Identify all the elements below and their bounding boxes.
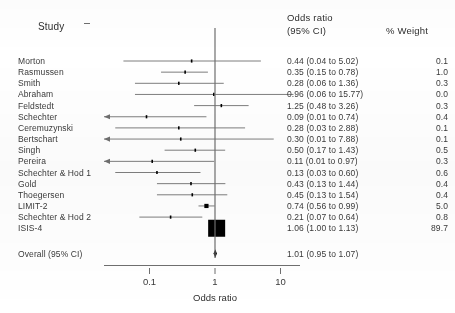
study-name-label: Singh <box>18 145 40 155</box>
odds-ratio-value: 1.06 (1.00 to 1.13) <box>287 223 358 233</box>
odds-ratio-value: 1.25 (0.48 to 3.26) <box>287 101 358 111</box>
weight-value: 0.3 <box>386 78 448 88</box>
odds-ratio-value: 0.13 (0.03 to 0.60) <box>287 168 358 178</box>
point-estimate-marker <box>204 204 208 208</box>
weight-value: 5.0 <box>386 201 448 211</box>
point-estimate-marker-large <box>208 220 225 237</box>
weight-value: 0.6 <box>386 168 448 178</box>
study-name-label: Pereira <box>18 156 46 166</box>
summary-label: Overall (95% CI) <box>18 249 82 259</box>
odds-ratio-value: 0.44 (0.04 to 5.02) <box>287 56 358 66</box>
odds-ratio-value: 0.35 (0.15 to 0.78) <box>287 67 358 77</box>
study-name-label: LIMIT-2 <box>18 201 48 211</box>
weight-value: 0.5 <box>386 145 448 155</box>
axis-title: Odds ratio <box>193 292 237 303</box>
column-header-study: Study <box>38 21 65 32</box>
odds-ratio-value: 0.45 (0.13 to 1.54) <box>287 190 358 200</box>
weight-value: 0.1 <box>386 56 448 66</box>
axis-layer <box>104 28 300 274</box>
study-name-label: Schechter <box>18 112 57 122</box>
odds-ratio-value: 0.96 (0.06 to 15.77) <box>287 89 363 99</box>
weight-value: 0.1 <box>386 134 448 144</box>
study-name-label: Thoegersen <box>18 190 64 200</box>
summary-odds-ratio-value: 1.01 (0.95 to 1.07) <box>287 249 358 259</box>
column-header-weight: % Weight <box>386 25 428 36</box>
ci-left-arrowhead <box>104 159 110 164</box>
weight-value: 0.4 <box>386 112 448 122</box>
study-name-label: Feldstedt <box>18 101 54 111</box>
weight-value: 0.8 <box>386 212 448 222</box>
weight-value: 0.1 <box>386 123 448 133</box>
study-name-label: ISIS-4 <box>18 223 42 233</box>
odds-ratio-value: 0.30 (0.01 to 7.88) <box>287 134 358 144</box>
study-header-dash <box>84 23 90 24</box>
confidence-interval-layer <box>104 59 293 257</box>
x-axis-tick-label: 10 <box>275 276 286 287</box>
weight-value: 1.0 <box>386 67 448 77</box>
odds-ratio-value: 0.74 (0.56 to 0.99) <box>287 201 358 211</box>
weight-value: 0.3 <box>386 101 448 111</box>
study-name-label: Smith <box>18 78 40 88</box>
study-name-label: Schechter & Hod 1 <box>18 168 91 178</box>
ci-left-arrowhead <box>104 136 110 141</box>
x-axis-tick-label: 0.1 <box>143 276 156 287</box>
odds-ratio-value: 0.28 (0.06 to 1.36) <box>287 78 358 88</box>
odds-ratio-value: 0.11 (0.01 to 0.97) <box>287 156 358 166</box>
weight-value: 0.4 <box>386 179 448 189</box>
study-name-label: Rasmussen <box>18 67 64 77</box>
study-name-label: Bertschart <box>18 134 58 144</box>
weight-value: 0.4 <box>386 190 448 200</box>
column-header-odds-ratio: Odds ratio <box>287 12 333 23</box>
odds-ratio-value: 0.28 (0.03 to 2.88) <box>287 123 358 133</box>
ci-left-arrowhead <box>104 114 110 119</box>
odds-ratio-value: 0.09 (0.01 to 0.74) <box>287 112 358 122</box>
study-name-label: Ceremuzynski <box>18 123 73 133</box>
study-name-label: Gold <box>18 179 36 189</box>
column-header-ci: (95% CI) <box>287 25 326 36</box>
weight-value: 0.3 <box>386 156 448 166</box>
study-name-label: Morton <box>18 56 45 66</box>
weight-value: 0.0 <box>386 89 448 99</box>
odds-ratio-value: 0.21 (0.07 to 0.64) <box>287 212 358 222</box>
weight-value: 89.7 <box>386 223 448 233</box>
study-name-label: Abraham <box>18 89 53 99</box>
odds-ratio-value: 0.43 (0.13 to 1.44) <box>287 179 358 189</box>
study-name-label: Schechter & Hod 2 <box>18 212 91 222</box>
x-axis-tick-label: 1 <box>212 276 217 287</box>
odds-ratio-value: 0.50 (0.17 to 1.43) <box>287 145 358 155</box>
